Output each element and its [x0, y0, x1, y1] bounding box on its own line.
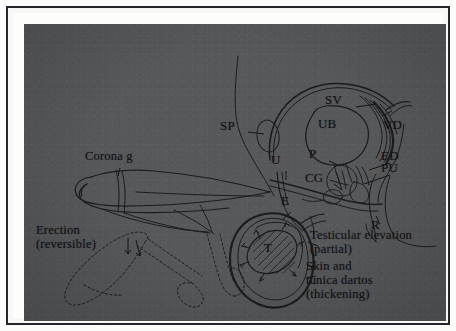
figure-page: SP SV UB VD P ED PU CG U E T R Corona g … — [0, 0, 456, 331]
label-p: P — [309, 147, 316, 162]
annotation-skin-tunica-dartos: Skin and tunica dartos (thickening) — [306, 259, 373, 301]
annotation-erection-reversible: Erection (reversible) — [36, 223, 96, 251]
label-ub: UB — [318, 117, 336, 132]
annotation-testicular-elevation: Testicular elevation (partial) — [310, 228, 412, 256]
label-e: E — [281, 194, 289, 209]
label-t: T — [264, 241, 272, 256]
annotation-corona-g: Corona g — [85, 149, 133, 163]
label-sp: SP — [220, 119, 235, 134]
penis-shaft — [75, 170, 270, 234]
diagram-plate: SP SV UB VD P ED PU CG U E T R Corona g … — [24, 24, 446, 321]
pelvic-contour — [235, 56, 436, 247]
label-pu: PU — [381, 161, 398, 176]
label-vd: VD — [383, 118, 402, 133]
frame-mat: SP SV UB VD P ED PU CG U E T R Corona g … — [13, 13, 443, 318]
label-u: U — [271, 153, 281, 168]
label-sv: SV — [325, 93, 342, 108]
label-cg: CG — [305, 171, 323, 186]
photo-frame: SP SV UB VD P ED PU CG U E T R Corona g … — [6, 6, 450, 325]
